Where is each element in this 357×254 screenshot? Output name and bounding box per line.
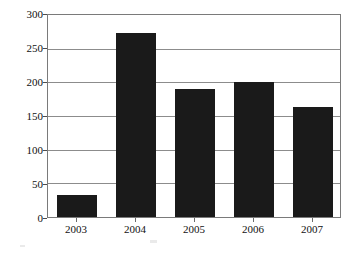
x-tick-label-2007: 2007 (301, 224, 323, 235)
x-axis: 2003 2004 2005 2006 2007 (47, 224, 341, 244)
x-tick-label-2005: 2005 (183, 224, 205, 235)
x-tick-mark (194, 218, 195, 222)
bar-2005[interactable] (175, 89, 215, 217)
bar-chart: 300 250 200 150 100 50 0 (0, 0, 357, 254)
bars-layer (48, 15, 340, 217)
y-tick-label: 300 (3, 9, 43, 20)
x-tick-mark (253, 218, 254, 222)
y-axis: 300 250 200 150 100 50 0 (0, 0, 43, 254)
y-tick-label: 200 (3, 77, 43, 88)
x-tick-mark (135, 218, 136, 222)
y-tick-label: 250 (3, 43, 43, 54)
y-tick-label: 150 (3, 111, 43, 122)
x-tick-mark (312, 218, 313, 222)
x-tick-label-2004: 2004 (124, 224, 146, 235)
x-tick-label-2006: 2006 (242, 224, 264, 235)
plot-area (47, 14, 341, 218)
bar-2007[interactable] (293, 107, 333, 217)
x-tick-mark (76, 218, 77, 222)
y-tick-label: 100 (3, 145, 43, 156)
bar-2006[interactable] (234, 82, 274, 217)
y-tick-mark (43, 218, 47, 219)
y-tick-label: 50 (3, 179, 43, 190)
y-tick-label: 0 (3, 213, 43, 224)
x-tick-label-2003: 2003 (65, 224, 87, 235)
bar-2004[interactable] (116, 33, 156, 217)
bar-2003[interactable] (57, 195, 97, 217)
